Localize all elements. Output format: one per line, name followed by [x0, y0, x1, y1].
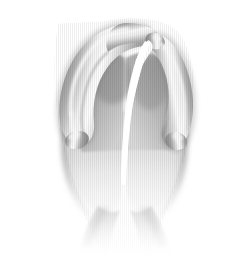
figure-panel-a: A	[0, 0, 249, 257]
illustration-svg: Bilateral lobed structure with central m…	[0, 0, 249, 257]
anatomical-illustration: Bilateral lobed structure with central m…	[0, 0, 249, 257]
